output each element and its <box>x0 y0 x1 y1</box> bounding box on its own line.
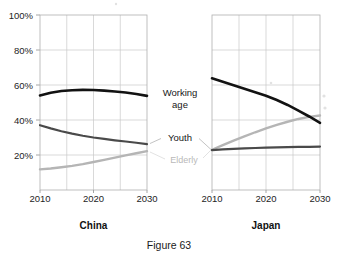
china-vertical-gridlines <box>67 15 121 190</box>
y-tick-label-60: 60% <box>14 80 34 91</box>
china-x-tick-label-2020: 2020 <box>83 193 104 204</box>
japan-x-tick-label-2030: 2030 <box>309 193 330 204</box>
y-tick-label-80: 80% <box>14 45 34 56</box>
annotation-working-age-line1: Working <box>163 87 198 98</box>
scan-artifacts <box>115 3 327 110</box>
annotation-elderly: Elderly <box>170 155 198 165</box>
figure-63-chart: 100% 80% 60% 40% 20% <box>0 0 338 258</box>
japan-x-tick-label-2010: 2010 <box>201 193 222 204</box>
annotation-youth: Youth <box>168 132 192 143</box>
china-x-tick-label-2030: 2030 <box>136 193 157 204</box>
series-annotations: Working age Youth Elderly <box>150 86 211 165</box>
figure-caption: Figure 63 <box>147 239 192 251</box>
y-tick-label-100: 100% <box>9 10 34 21</box>
annotation-working-age-line2: age <box>172 99 188 110</box>
y-axis-tick-marks <box>36 15 40 155</box>
y-tick-label-20: 20% <box>14 150 34 161</box>
y-axis-labels: 100% 80% 60% 40% 20% <box>9 10 34 161</box>
panel-title-china: China <box>80 220 108 231</box>
panel-japan: 2010 2020 2030 Japan <box>201 15 330 231</box>
panel-title-japan: Japan <box>252 220 281 231</box>
panel-china: 2010 2020 2030 China <box>29 15 157 231</box>
y-tick-label-40: 40% <box>14 115 34 126</box>
china-x-axis-labels: 2010 2020 2030 <box>29 193 157 204</box>
japan-x-axis-labels: 2010 2020 2030 <box>201 193 330 204</box>
china-x-tick-label-2010: 2010 <box>29 193 50 204</box>
japan-x-tick-label-2020: 2020 <box>255 193 276 204</box>
